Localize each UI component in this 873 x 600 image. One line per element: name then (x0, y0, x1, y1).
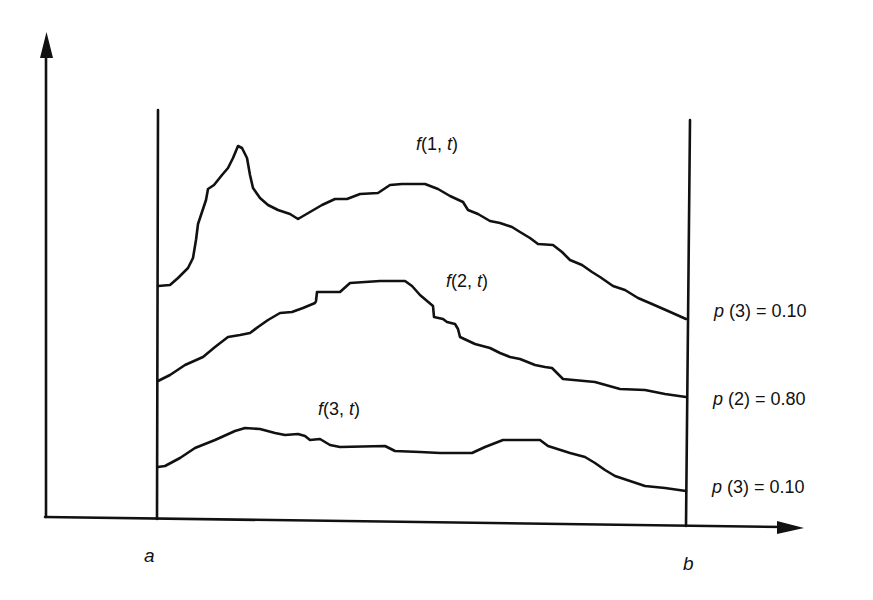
prob-value: 0.10 (770, 477, 805, 497)
func-var: t (349, 399, 354, 419)
probability-label-1: p (3) = 0.10 (714, 302, 807, 320)
probability-label-3: p (3) = 0.10 (712, 478, 805, 496)
curve-f3 (158, 428, 686, 491)
probability-label-2: p (2) = 0.80 (713, 390, 806, 408)
prob-value: 0.80 (771, 389, 806, 409)
bound-label-a: a (144, 546, 155, 565)
func-index: 2 (457, 271, 467, 291)
diagram-canvas (0, 0, 873, 600)
bound-line-b (686, 120, 690, 526)
bound-label-b: b (683, 554, 694, 573)
prob-func: p (713, 389, 723, 409)
func-var: t (477, 271, 482, 291)
curve-f2 (158, 281, 686, 397)
prob-func: p (712, 477, 722, 497)
prob-index: 2 (734, 389, 744, 409)
prob-func: p (714, 301, 724, 321)
prob-value: 0.10 (772, 301, 807, 321)
curve-label-f1: f(1, t) (416, 135, 458, 153)
func-var: t (447, 134, 452, 154)
curve-label-f3: f(3, t) (318, 400, 360, 418)
x-axis (45, 517, 804, 534)
func-name: f (416, 134, 421, 154)
func-name: f (446, 271, 451, 291)
curve-f1 (158, 146, 686, 319)
func-name: f (318, 399, 323, 419)
bound-line-a (157, 110, 158, 519)
prob-index: 3 (733, 477, 743, 497)
func-index: 3 (329, 399, 339, 419)
curve-label-f2: f(2, t) (446, 272, 488, 290)
y-axis (40, 32, 53, 517)
func-index: 1 (427, 134, 437, 154)
x-axis-arrow-icon (777, 521, 804, 534)
y-axis-arrow-icon (40, 32, 53, 58)
prob-index: 3 (735, 301, 745, 321)
